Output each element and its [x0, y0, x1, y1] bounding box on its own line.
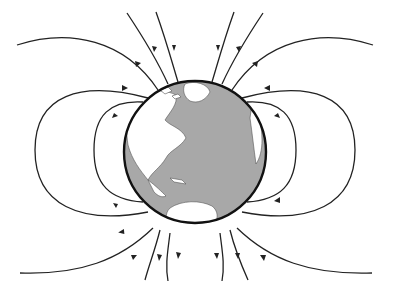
magnetic-field-diagram: Earth's magnetic field lines: [0, 0, 393, 296]
earth-globe: [124, 81, 266, 256]
